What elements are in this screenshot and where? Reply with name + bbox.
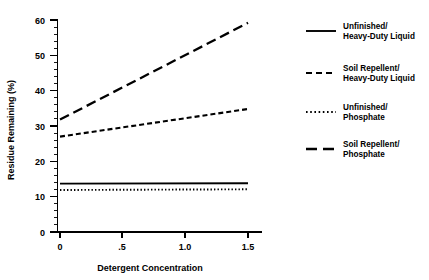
y-tick-label-10: 10 [35, 192, 45, 202]
chart-figure: Residue Remaining (%) Detergent Concentr… [0, 0, 429, 280]
y-tick-label-50: 50 [35, 51, 45, 61]
legend-label-unfinished-heavy-duty-liquid-line1: Unfinished/ [343, 22, 388, 31]
y-tick-label-20: 20 [35, 157, 45, 167]
legend-label-unfinished-phosphate-line1: Unfinished/ [343, 103, 388, 112]
legend-label-soil-repellent-phosphate-line1: Soil Repellent/ [343, 140, 400, 149]
legend-label-unfinished-phosphate-line2: Phosphate [343, 113, 385, 122]
legend-label-soil-repellent-phosphate-line2: Phosphate [343, 150, 385, 159]
x-tick-label-1-5: 1.5 [242, 242, 255, 252]
x-tick-label-0-5: .5 [118, 242, 126, 252]
legend-label-soil-repellent-heavy-duty-liquid-line1: Soil Repellent/ [343, 64, 400, 73]
y-tick-label-30: 30 [35, 122, 45, 132]
legend-label-soil-repellent-heavy-duty-liquid-line2: Heavy-Duty Liquid [343, 74, 415, 83]
y-tick-label-40: 40 [35, 86, 45, 96]
x-tick-label-0: 0 [57, 242, 62, 252]
y-tick-label-0: 0 [40, 228, 45, 238]
residue-remaining-line-chart: Residue Remaining (%) Detergent Concentr… [0, 0, 429, 280]
y-axis-title: Residue Remaining (%) [6, 80, 16, 180]
x-tick-label-1-0: 1.0 [179, 242, 192, 252]
x-axis-title: Detergent Concentration [97, 263, 203, 273]
y-tick-label-60: 60 [35, 16, 45, 26]
legend-label-unfinished-heavy-duty-liquid-line2: Heavy-Duty Liquid [343, 32, 415, 41]
